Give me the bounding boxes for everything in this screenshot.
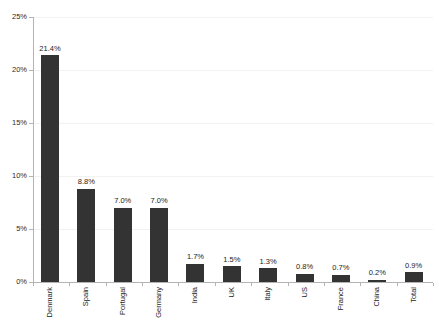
bar-group: 0.8% [288,17,322,282]
y-axis-tick-label: 20% [1,66,27,74]
x-axis-category-label: UK [215,287,249,330]
y-axis-tick-label: 25% [1,13,27,21]
y-axis-labels: 0%5%10%15%20%25% [0,0,27,330]
y-axis-tick-label: 10% [1,172,27,180]
bar [405,272,423,282]
x-axis-category-label: Germany [142,287,176,330]
y-axis-tick-mark [29,229,33,230]
bars-layer: 21.4%8.8%7.0%7.0%1.7%1.5%1.3%0.8%0.7%0.2… [33,17,433,282]
y-axis-tick-label: 5% [1,225,27,233]
x-axis-category-label-text: China [374,287,382,307]
y-axis-tick-mark [29,17,33,18]
bar-value-label: 21.4% [29,45,71,53]
bar [259,268,277,282]
x-axis-category-label: US [288,287,322,330]
x-axis-category-label-text: UK [228,287,236,297]
bar-value-label: 7.0% [138,197,180,205]
x-axis-category-label: Italy [251,287,285,330]
x-axis-labels: DenmarkSpainPortugalGermanyIndiaUKItalyU… [33,287,433,330]
bar-group: 1.3% [251,17,285,282]
x-axis-tick-mark [397,283,398,286]
bar-value-label: 0.9% [393,262,435,270]
x-axis-category-label: India [178,287,212,330]
bar-group: 1.5% [215,17,249,282]
bar [332,275,350,282]
bar [186,264,204,282]
x-axis-category-label: Denmark [33,287,67,330]
x-axis-tick-mark [324,283,325,286]
x-axis-category-label: Total [397,287,431,330]
x-axis-tick-mark [288,283,289,286]
x-axis-category-label-text: India [192,287,200,303]
bar-group: 0.2% [360,17,394,282]
y-axis-tick-mark [29,282,33,283]
bar-group: 7.0% [142,17,176,282]
x-axis-tick-mark [106,283,107,286]
bar [41,55,59,282]
y-axis-tick-label: 0% [1,278,27,286]
y-axis-tick-mark [29,70,33,71]
bar [77,189,95,282]
x-axis-category-label-text: Total [410,287,418,303]
x-axis-tick-mark [360,283,361,286]
x-axis-tick-mark [433,283,434,286]
x-axis-category-label: France [324,287,358,330]
x-axis-tick-mark [142,283,143,286]
x-axis-category-label-text: Denmark [46,287,54,317]
bar-group: 8.8% [69,17,103,282]
x-axis-category-label-text: US [301,287,309,297]
x-axis-category-label: Spain [69,287,103,330]
bar-value-label: 0.2% [356,269,398,277]
bar-group: 1.7% [178,17,212,282]
bar [114,208,132,282]
x-axis-category-label: China [360,287,394,330]
x-axis-tick-mark [69,283,70,286]
x-axis-category-label: Portugal [106,287,140,330]
x-axis-category-label-text: Portugal [119,287,127,315]
y-axis-tick-label: 15% [1,119,27,127]
x-axis-category-label-text: Germany [155,287,163,318]
x-axis-tick-mark [33,283,34,286]
bar [150,208,168,282]
x-axis-category-label-text: Spain [83,287,91,306]
bar-chart: 0%5%10%15%20%25% 21.4%8.8%7.0%7.0%1.7%1.… [0,0,439,330]
bar [223,266,241,282]
bar [368,280,386,282]
x-axis-tick-mark [178,283,179,286]
y-axis-tick-mark [29,176,33,177]
bar-group: 7.0% [106,17,140,282]
bar-value-label: 8.8% [65,178,107,186]
bar-group: 21.4% [33,17,67,282]
x-axis-tick-mark [251,283,252,286]
bar-group: 0.7% [324,17,358,282]
bar [296,274,314,282]
x-axis-tick-mark [215,283,216,286]
x-axis-category-label-text: Italy [264,287,272,301]
x-axis-category-label-text: France [337,287,345,310]
y-axis-tick-mark [29,123,33,124]
bar-group: 0.9% [397,17,431,282]
